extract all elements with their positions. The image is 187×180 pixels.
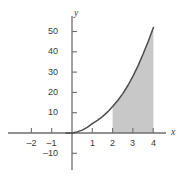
x-tick-label-2: 2 bbox=[103, 139, 122, 148]
plot-canvas bbox=[0, 0, 187, 180]
y-axis-label: y bbox=[74, 9, 78, 18]
chart-figure: 50 40 30 20 10 –10 –2 –1 1 2 3 4 y x bbox=[0, 0, 187, 180]
x-axis-label: x bbox=[171, 128, 175, 137]
y-tick-label-40: 40 bbox=[38, 47, 58, 56]
y-tick-label-20: 20 bbox=[38, 88, 58, 97]
x-tick-label-3: 3 bbox=[123, 139, 142, 148]
x-tick-label-minus-1: –1 bbox=[41, 139, 62, 148]
y-tick-label-minus-10: –10 bbox=[33, 149, 58, 158]
y-axis-ticks bbox=[72, 32, 77, 154]
y-tick-label-50: 50 bbox=[38, 27, 58, 36]
x-tick-label-minus-2: –2 bbox=[21, 139, 42, 148]
y-tick-label-30: 30 bbox=[38, 68, 58, 77]
x-tick-label-4: 4 bbox=[144, 139, 163, 148]
y-tick-label-10: 10 bbox=[38, 108, 58, 117]
x-tick-label-1: 1 bbox=[83, 139, 102, 148]
